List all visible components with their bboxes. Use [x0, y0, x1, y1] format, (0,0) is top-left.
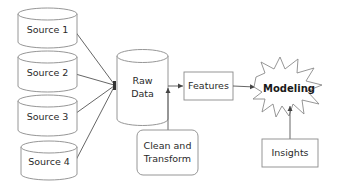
source-1-label: Source 1: [27, 24, 69, 35]
features-label: Features: [188, 80, 229, 91]
source-3-node: Source 3: [18, 95, 77, 136]
cylinder-top: [21, 141, 77, 153]
modeling-node: Modeling: [253, 57, 322, 117]
clean-transform-label-line2: Transform: [143, 153, 191, 164]
insights-label: Insights: [271, 147, 308, 158]
edge-source1-rawdata: [72, 27, 114, 84]
junction-connector: [113, 81, 116, 90]
pipeline-diagram: Source 1 Source 2 Source 3 Source 4 Raw …: [0, 0, 343, 184]
source-edges: [72, 27, 116, 160]
raw-data-label-line1: Raw: [133, 75, 153, 86]
edge-source3-rawdata: [72, 86, 114, 116]
raw-data-label-line2: Data: [131, 88, 154, 99]
source-3-label: Source 3: [27, 111, 69, 122]
cylinder-top: [18, 51, 77, 63]
cylinder-top: [117, 50, 168, 63]
source-4-node: Source 4: [21, 141, 77, 180]
clean-transform-node: Clean and Transform: [137, 130, 198, 175]
source-2-label: Source 2: [27, 67, 69, 78]
clean-transform-label-line1: Clean and: [144, 140, 192, 151]
source-1-node: Source 1: [18, 8, 77, 48]
source-4-label: Source 4: [28, 156, 70, 167]
raw-data-node: Raw Data: [117, 50, 168, 126]
source-2-node: Source 2: [18, 51, 77, 92]
cylinder-top: [18, 95, 77, 107]
cylinder-top: [18, 8, 77, 20]
modeling-label: Modeling: [263, 83, 315, 94]
edge-source4-rawdata: [76, 87, 114, 160]
features-node: Features: [184, 72, 233, 100]
edge-features-modeling: [233, 86, 255, 87]
insights-node: Insights: [262, 139, 318, 167]
